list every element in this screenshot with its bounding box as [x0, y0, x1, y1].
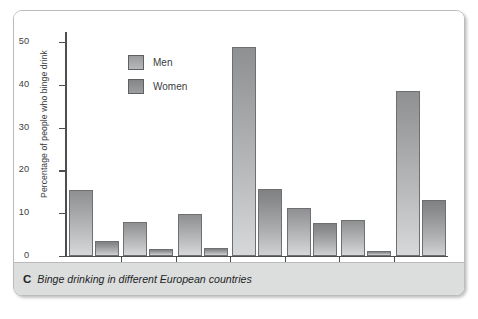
figure-caption: C Binge drinking in different European c… — [14, 262, 465, 295]
chart-plot-area: Percentage of people who binge drink 010… — [14, 11, 465, 263]
y-axis-title: Percentage of people who binge drink — [39, 17, 49, 232]
legend-item-men: Men — [128, 55, 187, 70]
y-axis-tick — [59, 85, 66, 86]
y-axis-line — [65, 32, 67, 257]
bar-ireland-women — [258, 189, 282, 256]
y-axis-tick-label: 30 — [13, 122, 29, 132]
bar-finland-women — [95, 241, 119, 256]
y-axis-tick-label: 20 — [13, 164, 29, 174]
y-axis-tick — [59, 128, 66, 129]
legend-swatch-men-icon — [128, 55, 144, 70]
bar-sweden-women — [367, 251, 391, 256]
legend-swatch-women-icon — [128, 79, 144, 94]
y-axis-tick — [59, 170, 66, 171]
bar-france-women — [149, 249, 173, 256]
y-axis-tick-label: 50 — [13, 36, 29, 46]
legend-label-women: Women — [153, 81, 187, 92]
figure-panel: Percentage of people who binge drink 010… — [13, 10, 465, 296]
y-axis-tick — [59, 42, 66, 43]
bar-italy-women — [313, 223, 337, 256]
chart-legend: Men Women — [128, 55, 187, 103]
bar-germany-women — [204, 248, 228, 256]
y-axis-tick — [59, 213, 66, 214]
y-axis-tick-label: 10 — [13, 207, 29, 217]
bar-france-men — [123, 222, 147, 256]
caption-text: Binge drinking in different European cou… — [37, 273, 251, 285]
bar-germany-men — [178, 214, 202, 256]
legend-item-women: Women — [128, 79, 187, 94]
bar-italy-men — [287, 208, 311, 256]
caption-letter: C — [23, 273, 31, 285]
y-axis-tick-label: 40 — [13, 79, 29, 89]
bar-ireland-men — [232, 47, 256, 256]
bar-finland-men — [69, 190, 93, 256]
bar-uk-men — [396, 91, 420, 256]
bar-sweden-men — [341, 220, 365, 256]
legend-label-men: Men — [153, 57, 172, 68]
bar-uk-women — [422, 200, 446, 256]
y-axis-tick-label: 0 — [13, 250, 29, 260]
y-axis-tick — [59, 256, 66, 257]
